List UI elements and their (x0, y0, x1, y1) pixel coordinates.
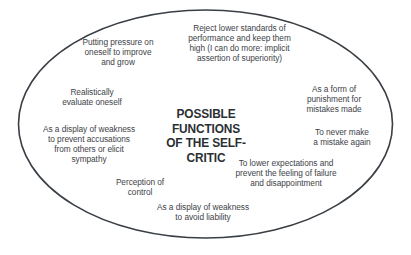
note-display-weakness-accusations: As a display of weakness to prevent accu… (26, 125, 152, 165)
diagram-canvas: POSSIBLE FUNCTIONS OF THE SELF-CRITIC Pu… (0, 0, 411, 255)
note-never-mistake-again: To never make a mistake again (296, 128, 388, 148)
note-reject-lower-standards: Reject lower standards of performance an… (172, 24, 307, 64)
note-lower-expectations: To lower expectations and prevent the fe… (212, 159, 360, 189)
note-perception-of-control: Perception of control (98, 178, 182, 198)
note-realistic-evaluation: Realistically evaluate oneself (44, 88, 140, 108)
page-title: POSSIBLE FUNCTIONS OF THE SELF-CRITIC (154, 107, 258, 165)
note-form-of-punishment: As a form of punishment for mistakes mad… (288, 85, 380, 115)
note-pressure-improve: Putting pressure on oneself to improve a… (62, 38, 174, 68)
note-display-weakness-liability: As a display of weakness to avoid liabil… (138, 203, 268, 223)
